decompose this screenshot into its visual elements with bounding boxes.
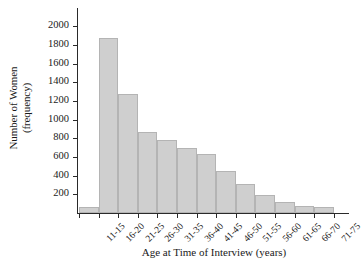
bar [295,206,315,213]
y-axis-tick: 1400 [73,82,78,83]
y-axis-tick-label: 1600 [29,57,69,68]
x-axis-tick [197,213,198,218]
x-axis-tick-label: 66-70 [320,221,343,244]
bar [157,140,177,213]
bar [255,195,275,213]
y-axis-tick-label: 400 [29,169,69,180]
x-axis-tick-label: 61-65 [300,221,323,244]
x-axis-tick [334,213,335,218]
x-axis-tick [138,213,139,218]
x-axis-tick [216,213,217,218]
y-axis-tick-label: 1000 [29,113,69,124]
y-axis-tick: 200 [73,194,78,195]
x-axis-tick-label: 26-30 [163,221,186,244]
bar [118,94,138,213]
x-axis-tick-label: 56-60 [281,221,304,244]
y-axis-tick-label: 1200 [29,94,69,105]
y-axis-tick-label: 200 [29,187,69,198]
y-axis-title: Number of Women (frequency) [0,0,40,215]
x-axis-title: Age at Time of Interview (years) [78,246,350,259]
y-axis-title-line1: Number of Women [7,66,20,149]
x-axis-tick [275,213,276,218]
x-axis-tick-label: 21-25 [143,221,166,244]
x-axis-tick [118,213,119,218]
y-axis-tick: 600 [73,157,78,158]
bar [99,38,119,213]
y-axis-tick-label: 2000 [29,19,69,30]
bar [275,202,295,213]
bar [197,154,217,213]
y-axis-tick: 2000 [73,26,78,27]
bar [236,184,256,213]
bar [138,132,158,213]
x-axis-tick [236,213,237,218]
x-axis-tick [157,213,158,218]
y-axis-tick-label: 1800 [29,38,69,49]
x-axis-tick-label: 31-35 [183,221,206,244]
y-axis-tick: 1600 [73,64,78,65]
bar [79,207,99,213]
y-axis-tick: 800 [73,138,78,139]
y-axis-line [77,8,78,213]
y-axis-tick: 1800 [73,45,78,46]
y-axis-tick: 1000 [73,120,78,121]
bar [216,171,236,213]
x-axis-tick [295,213,296,218]
x-axis-tick-label: 11-15 [104,221,126,243]
y-axis-tick-label: 800 [29,131,69,142]
y-axis-tick: 400 [73,176,78,177]
x-axis-tick [314,213,315,218]
x-axis-tick-label: 16-20 [124,221,147,244]
y-axis-tick-label: 1400 [29,75,69,86]
x-axis-tick [99,213,100,218]
x-axis-tick [177,213,178,218]
plot-area: 200400600800100012001400160018002000 11-… [78,17,343,213]
bar [177,148,197,213]
x-axis-tick-label: 51-55 [261,221,284,244]
x-axis-tick-label: 46-50 [241,221,264,244]
x-axis-tick-label: 41-45 [222,221,245,244]
y-axis-tick: 1200 [73,101,78,102]
x-axis-tick [79,213,80,218]
bar [314,207,334,213]
y-axis-tick-label: 600 [29,150,69,161]
x-axis-tick-label: 71-75 [339,221,362,244]
x-axis-tick-label: 36-40 [202,221,225,244]
x-axis-tick [255,213,256,218]
